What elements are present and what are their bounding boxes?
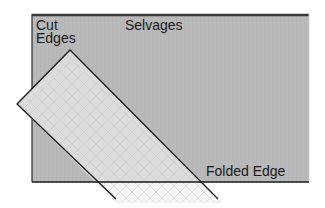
selvages-label: Selvages [125, 19, 183, 32]
folded-edge-label: Folded Edge [206, 165, 285, 178]
cut-edges-line2: Edges [36, 32, 86, 45]
cut-edges-label: Cut Edges [36, 19, 86, 45]
